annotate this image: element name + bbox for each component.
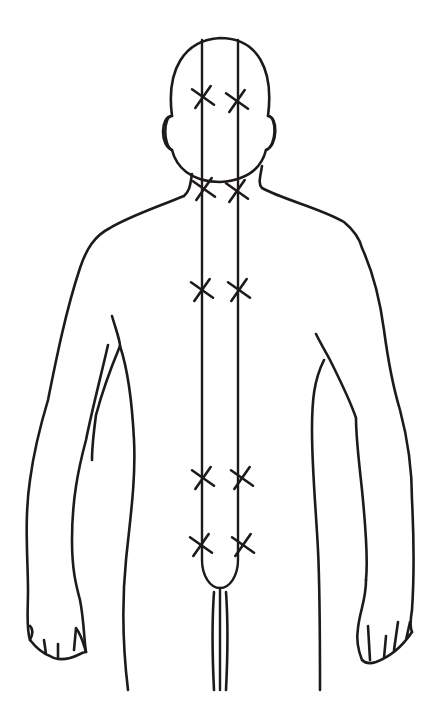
left-hand xyxy=(30,626,86,659)
left-leg-inner xyxy=(213,592,215,690)
right-leg-inner xyxy=(226,592,228,690)
right-armpit xyxy=(316,334,367,580)
x-marker-sacral-right xyxy=(232,534,254,556)
right-hand xyxy=(357,580,412,663)
head-outline xyxy=(163,38,275,182)
left-armpit xyxy=(92,316,120,460)
left-ear xyxy=(165,116,172,150)
left-torso-side xyxy=(120,346,134,690)
body-diagram xyxy=(0,0,448,720)
right-torso-side xyxy=(312,360,324,690)
acupoint-markers xyxy=(190,86,254,556)
right-shoulder-arm xyxy=(260,166,414,632)
left-shoulder-arm xyxy=(27,174,192,640)
spinal-meridian-lines xyxy=(202,40,238,690)
x-marker-lower-back-right xyxy=(231,467,253,489)
meridian-u-line xyxy=(202,40,238,588)
